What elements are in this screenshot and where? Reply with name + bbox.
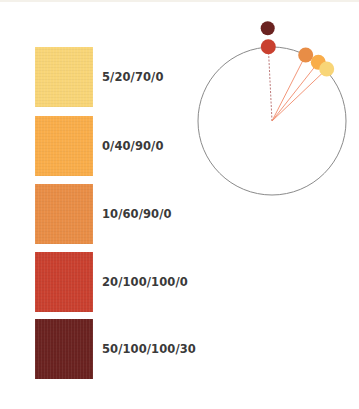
dark-red-dot xyxy=(261,21,275,35)
yellow-dot xyxy=(319,62,334,77)
spoke-line xyxy=(272,55,306,121)
spoke-line xyxy=(272,62,318,121)
wheel-dots xyxy=(261,21,335,76)
spoke-line xyxy=(272,69,327,121)
red-dot xyxy=(261,39,276,54)
color-wheel-diagram xyxy=(0,0,359,409)
spoke-line xyxy=(268,47,272,121)
orange-brown-dot xyxy=(298,48,313,63)
